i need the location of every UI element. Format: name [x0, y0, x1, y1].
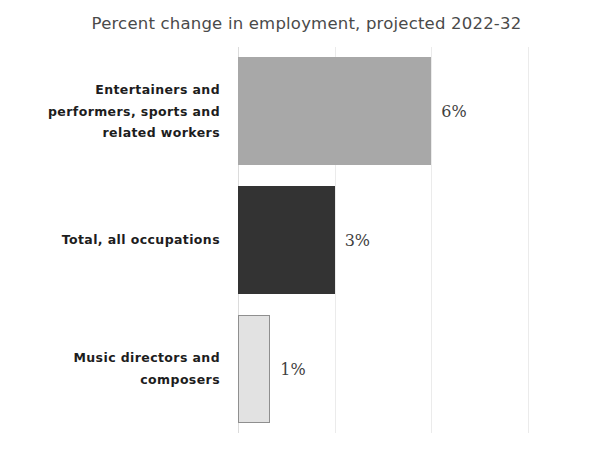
bar-value-label: 1%	[280, 359, 305, 378]
bar[interactable]	[238, 315, 270, 423]
category-label: Total, all occupations	[0, 186, 228, 294]
bar[interactable]	[238, 57, 431, 165]
category-label-line: Total, all occupations	[0, 229, 220, 251]
bar-row: 3%	[238, 186, 528, 294]
bar[interactable]	[238, 186, 335, 294]
category-label-line: Music directors and	[0, 347, 220, 369]
bar-chart: Percent change in employment, projected …	[0, 0, 613, 460]
gridline-9	[528, 47, 529, 433]
bar-row: 6%	[238, 57, 528, 165]
bar-value-label: 3%	[345, 231, 370, 250]
category-label-line: performers, sports and	[0, 101, 220, 123]
bar-value-label: 6%	[441, 102, 466, 121]
bar-row: 1%	[238, 315, 528, 423]
plot-area: 6%3%1%	[238, 47, 528, 433]
chart-title: Percent change in employment, projected …	[0, 14, 613, 33]
category-label: Music directors andcomposers	[0, 315, 228, 423]
category-label-line: related workers	[0, 122, 220, 144]
category-label-line: Entertainers and	[0, 79, 220, 101]
category-label-line: composers	[0, 369, 220, 391]
category-label: Entertainers andperformers, sports andre…	[0, 57, 228, 165]
